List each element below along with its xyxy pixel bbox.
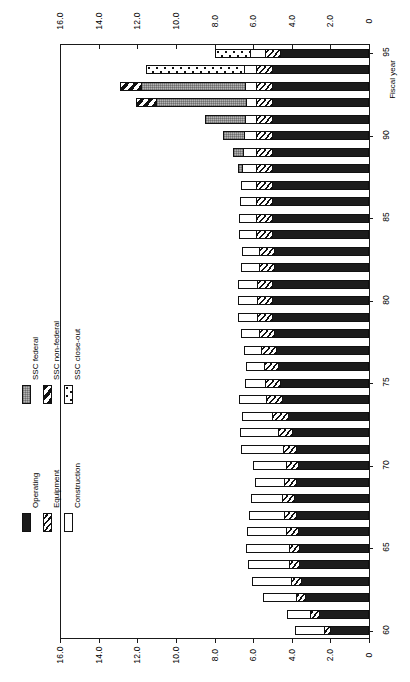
bar-segment	[241, 329, 259, 338]
bar-segment	[272, 214, 369, 223]
bar-segment	[252, 577, 291, 586]
bar-segment	[278, 362, 369, 371]
bar-row	[248, 560, 369, 569]
bar-segment	[298, 461, 369, 470]
bar-segment	[272, 412, 287, 421]
bar-segment	[241, 181, 256, 190]
bar-segment	[272, 164, 369, 173]
bar-segment	[324, 626, 331, 635]
bar-row	[247, 527, 369, 536]
bar-segment	[141, 82, 245, 91]
bar-segment	[264, 362, 278, 371]
bar-segment	[263, 593, 296, 602]
bar-segment	[242, 164, 256, 173]
bar-segment	[256, 115, 272, 124]
bar-segment	[242, 412, 273, 421]
bar-segment	[305, 593, 369, 602]
bar-row	[239, 230, 369, 239]
bar-segment	[319, 610, 369, 619]
bar-segment	[257, 313, 272, 322]
bar-row	[223, 131, 369, 140]
bar-row	[253, 461, 369, 470]
bar-segment	[272, 148, 369, 157]
bar-segment	[256, 214, 272, 223]
bar-segment	[238, 296, 257, 305]
bar-segment	[296, 511, 369, 520]
bar-segment	[284, 511, 296, 520]
bar-segment	[272, 296, 369, 305]
bar-row	[233, 148, 369, 157]
bar-segment	[288, 412, 369, 421]
bar-row	[242, 247, 369, 256]
bar-row	[241, 445, 369, 454]
bar-segment	[301, 577, 369, 586]
bar-segment	[261, 346, 276, 355]
bar-segment	[259, 263, 274, 272]
bar-segment	[256, 131, 272, 140]
bar-row	[136, 98, 369, 107]
bar-segment	[296, 445, 369, 454]
bar-segment	[256, 148, 272, 157]
legend-label: SSC non-federal	[52, 321, 61, 380]
legend-swatch	[64, 513, 73, 532]
legend-label: Construction	[73, 463, 82, 508]
bar-row	[238, 313, 369, 322]
bar-segment	[284, 478, 296, 487]
bar-segment	[251, 494, 282, 503]
bar-segment	[272, 313, 369, 322]
bar-segment	[156, 98, 247, 107]
legend-swatch	[22, 385, 31, 404]
bar-segment	[272, 280, 369, 289]
bar-row	[243, 346, 369, 355]
bar-segment	[245, 82, 256, 91]
bar-segment	[272, 98, 369, 107]
bar-segment	[272, 131, 369, 140]
bar-row	[246, 362, 369, 371]
bar-segment	[238, 280, 257, 289]
bar-segment	[299, 544, 369, 553]
bar-segment	[299, 560, 369, 569]
bar-segment	[244, 346, 261, 355]
bar-segment	[239, 395, 266, 404]
bar-segment	[296, 478, 369, 487]
legend-swatch	[43, 385, 52, 404]
bar-row	[255, 478, 369, 487]
bar-segment	[280, 49, 369, 58]
bar-segment	[240, 428, 279, 437]
bar-row	[252, 577, 369, 586]
bar-segment	[294, 494, 369, 503]
bar-segment	[245, 115, 256, 124]
bar-segment	[242, 247, 259, 256]
bar-segment	[330, 626, 369, 635]
bar-segment	[256, 181, 272, 190]
bar-row	[241, 263, 369, 272]
bar-segment	[274, 247, 369, 256]
bar-segment	[239, 214, 256, 223]
bar-segment	[240, 197, 256, 206]
bar-segment	[282, 494, 294, 503]
bar-segment	[244, 65, 256, 74]
bar-segment	[246, 544, 288, 553]
bar-row	[238, 164, 369, 173]
bar-segment	[272, 65, 369, 74]
bar-segment	[223, 131, 244, 140]
bar-segment	[249, 511, 284, 520]
bar-row	[287, 610, 369, 619]
bar-segment	[244, 131, 256, 140]
bar-row	[246, 544, 369, 553]
bar-row	[240, 197, 369, 206]
bar-segment	[233, 148, 243, 157]
bar-row	[239, 395, 369, 404]
bar-segment	[246, 98, 256, 107]
bar-row	[295, 626, 369, 635]
bar-segment	[257, 296, 272, 305]
bar-segment	[266, 395, 282, 404]
bar-segment	[272, 181, 369, 190]
bar-segment	[265, 49, 280, 58]
bar-segment	[272, 230, 369, 239]
bar-segment	[248, 560, 289, 569]
bar-segment	[250, 49, 264, 58]
bar-segment	[146, 65, 244, 74]
bar-segment	[282, 395, 369, 404]
bar-segment	[287, 610, 310, 619]
